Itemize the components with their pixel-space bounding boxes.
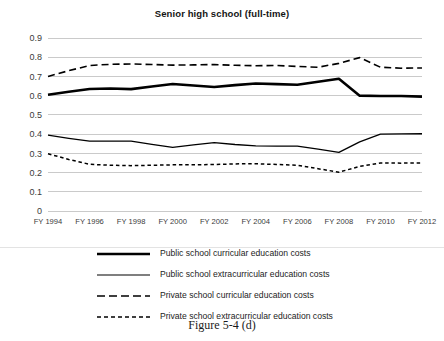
x-axis-tick-label: FY 2000 (158, 217, 187, 226)
x-axis-tick-label: FY 2010 (366, 217, 395, 226)
x-axis-tick-labels: FY 1994FY 1996FY 1998FY 2000FY 2002FY 20… (34, 217, 437, 226)
y-axis-tick-label: 0.3 (29, 149, 42, 159)
y-axis-tick-label: 0.8 (29, 52, 42, 62)
legend-item: Private school curricular education cost… (96, 285, 396, 306)
series-line (48, 134, 422, 153)
x-axis-tick-label: FY 1998 (117, 217, 146, 226)
y-axis-tick-label: 0.2 (29, 168, 42, 178)
y-axis-tick-label: 0.5 (29, 110, 42, 120)
y-axis-tick-label: 0.7 (29, 72, 42, 82)
x-axis-tick-label: FY 2012 (408, 217, 437, 226)
series-line (48, 154, 422, 172)
y-axis-tick-label: 0.9 (29, 33, 42, 43)
legend-item: Public school curricular education costs (96, 243, 396, 264)
legend-swatch-thick-solid (96, 248, 151, 260)
legend-swatch-long-dash (96, 290, 151, 302)
y-axis-tick-label: 0 (37, 206, 42, 216)
series-line (48, 58, 422, 77)
y-axis-tick-label: 0.1 (29, 187, 42, 197)
figure-container: Senior high school (full-time) 00.10.20.… (0, 0, 444, 341)
figure-caption: Figure 5-4 (d) (0, 318, 444, 333)
x-axis-tick-label: FY 2004 (241, 217, 270, 226)
legend-item-label: Public school curricular education costs (160, 249, 310, 258)
x-axis-tick-label: FY 2002 (200, 217, 229, 226)
y-axis-tick-label: 0.4 (29, 129, 42, 139)
legend-item: Public school extracurricular education … (96, 264, 396, 285)
x-axis-tick-label: FY 1996 (75, 217, 104, 226)
x-axis-tick-label: FY 2008 (325, 217, 354, 226)
y-axis-tick-label: 0.6 (29, 91, 42, 101)
y-axis-tick-labels: 00.10.20.30.40.50.60.70.80.9 (29, 33, 42, 216)
legend-item-label: Private school curricular education cost… (160, 291, 314, 300)
legend-item-label: Public school extracurricular education … (160, 270, 330, 279)
chart-legend: Public school curricular education costs… (96, 243, 396, 327)
line-chart-plot: 00.10.20.30.40.50.60.70.80.9 FY 1994FY 1… (0, 0, 444, 230)
series-line (48, 79, 422, 97)
x-axis-tick-label: FY 1994 (34, 217, 63, 226)
x-axis-tick-label: FY 2006 (283, 217, 312, 226)
legend-swatch-thin-solid (96, 269, 151, 281)
